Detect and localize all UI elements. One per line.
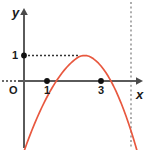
x-axis-arrow-icon	[136, 77, 143, 85]
parabola-curve	[25, 56, 137, 151]
x-axis-label: x	[136, 88, 143, 101]
origin-label: O	[9, 85, 18, 96]
y-one-point	[21, 53, 27, 59]
parabola-graph-figure: y x O 1 1 3	[0, 0, 148, 150]
y-axis-label: y	[12, 6, 19, 19]
y-tick-label-one: 1	[12, 50, 18, 61]
graph-canvas	[0, 0, 148, 150]
x-tick-label-one: 1	[44, 85, 50, 96]
x-tick-label-three: 3	[98, 85, 104, 96]
y-axis-arrow-icon	[20, 8, 28, 15]
